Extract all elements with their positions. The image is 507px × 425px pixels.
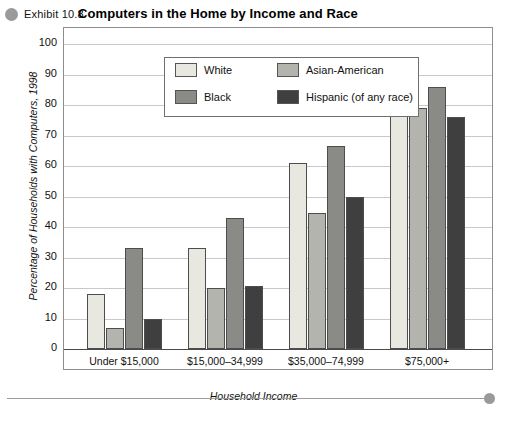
- bar-white-1: [188, 248, 206, 349]
- bar-black-3: [428, 87, 446, 349]
- legend-item: Asian-American: [277, 63, 384, 77]
- legend-swatch-icon: [175, 63, 197, 77]
- legend-item: Hispanic (of any race): [277, 90, 413, 104]
- legend-swatch-icon: [175, 90, 197, 104]
- y-axis-tick-label: 0: [29, 341, 57, 353]
- legend-label: Black: [204, 91, 231, 103]
- bar-hispanic-of-any-race-0: [144, 319, 162, 350]
- legend-swatch-icon: [277, 63, 299, 77]
- x-axis-group-label: Under $15,000: [82, 355, 166, 367]
- footer-caption: [120, 404, 500, 418]
- gridline: [64, 349, 492, 350]
- bar-asian-american-2: [308, 213, 326, 349]
- bar-asian-american-1: [207, 288, 225, 349]
- legend-swatch-icon: [277, 90, 299, 104]
- x-axis-group-label: $75,000+: [385, 355, 469, 367]
- footer-bullet-icon: [484, 393, 495, 404]
- x-axis-title: Household Income: [0, 390, 507, 402]
- bar-asian-american-0: [106, 328, 124, 349]
- y-axis-title-wrapper: Percentage of Households with Computers,…: [10, 20, 30, 350]
- bar-hispanic-of-any-race-2: [346, 197, 364, 350]
- legend-item: Black: [175, 90, 231, 104]
- bar-white-2: [289, 163, 307, 349]
- gridline: [64, 44, 492, 45]
- legend-label: White: [204, 64, 232, 76]
- bar-white-0: [87, 294, 105, 349]
- chart-legend: WhiteAsian-AmericanBlackHispanic (of any…: [164, 57, 419, 117]
- exhibit-header: Exhibit 10.8 Computers in the Home by In…: [0, 4, 507, 26]
- legend-label: Hispanic (of any race): [306, 91, 413, 103]
- x-axis-group-label: $15,000–34,999: [183, 355, 267, 367]
- y-axis-title: Percentage of Households with Computers,…: [27, 46, 39, 326]
- bar-black-2: [327, 146, 345, 349]
- legend-item: White: [175, 63, 232, 77]
- x-axis-group-label: $35,000–74,999: [284, 355, 368, 367]
- bar-hispanic-of-any-race-3: [447, 117, 465, 349]
- bar-asian-american-3: [409, 108, 427, 349]
- bar-black-1: [226, 218, 244, 349]
- bar-chart: Under $15,000$15,000–34,999$35,000–74,99…: [63, 27, 493, 370]
- page-title: Computers in the Home by Income and Race: [78, 6, 358, 21]
- legend-label: Asian-American: [306, 64, 384, 76]
- bar-black-0: [125, 248, 143, 349]
- footer-divider: [7, 398, 489, 399]
- bar-hispanic-of-any-race-1: [245, 286, 263, 349]
- bar-white-3: [390, 102, 408, 349]
- exhibit-label: Exhibit 10.8: [24, 8, 84, 20]
